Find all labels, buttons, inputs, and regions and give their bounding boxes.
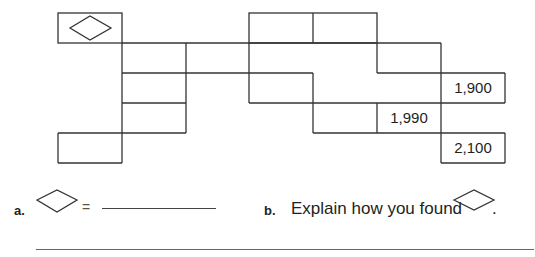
cell-value-1990: 1,990 <box>377 103 441 133</box>
diamond-icon <box>35 188 80 216</box>
equals-sign: = <box>82 199 90 215</box>
question-b-period: . <box>492 199 497 219</box>
question-b-text: Explain how you found <box>291 199 462 219</box>
answer-b-line[interactable] <box>36 249 534 250</box>
diamond-icon <box>70 16 111 40</box>
diamond-icon <box>452 188 497 216</box>
question-a-label: a. <box>14 203 25 218</box>
cell-value-2100: 2,100 <box>441 133 505 163</box>
cell-value-1900: 1,900 <box>441 73 505 103</box>
question-b-label: b. <box>264 203 276 218</box>
answer-a-blank[interactable] <box>102 208 216 209</box>
